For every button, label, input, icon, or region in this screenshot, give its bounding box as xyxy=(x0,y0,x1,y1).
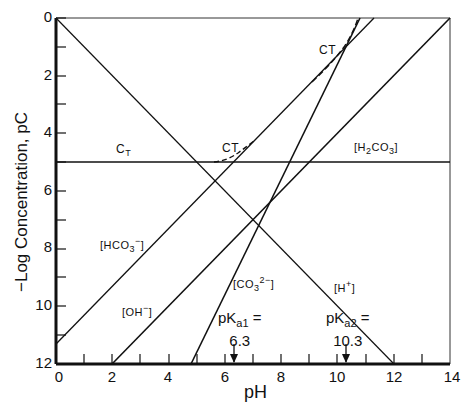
label-ct-left: CT xyxy=(116,142,131,158)
label-oh: [OH−] xyxy=(122,303,152,318)
x-tick-label: 0 xyxy=(44,368,74,385)
y-tick-label: 6 xyxy=(32,181,52,198)
x-tick-label: 6 xyxy=(210,368,240,385)
y-axis-title: −Log Concentration, pC xyxy=(12,112,32,292)
y-tick-label: 8 xyxy=(32,238,52,255)
label-h-plus: [H+] xyxy=(334,279,355,294)
x-axis-title: pH xyxy=(244,382,267,403)
y-tick-label: 0 xyxy=(32,8,52,25)
label-hco3: [HCO3−] xyxy=(100,236,144,254)
label-pka1: pKa1 =6.3 xyxy=(218,309,262,350)
label-pka2: pKa2 =10.3 xyxy=(326,309,370,350)
x-tick-label: 2 xyxy=(97,368,127,385)
label-ct-mid: CT xyxy=(222,141,239,155)
series-oh-minus-line xyxy=(112,18,450,364)
x-tick-label: 4 xyxy=(153,368,183,385)
x-tick-label: 14 xyxy=(437,368,467,385)
y-tick-label: 2 xyxy=(32,66,52,83)
x-tick-label: 10 xyxy=(322,368,352,385)
label-co3: [CO32−] xyxy=(233,275,274,293)
label-h2co3: [H2CO3] xyxy=(354,141,398,156)
x-tick-label: 8 xyxy=(266,368,296,385)
label-ct-top: CT xyxy=(319,43,336,57)
y-tick-label: 4 xyxy=(32,123,52,140)
y-tick-label: 10 xyxy=(32,296,52,313)
x-tick-label: 12 xyxy=(379,368,409,385)
